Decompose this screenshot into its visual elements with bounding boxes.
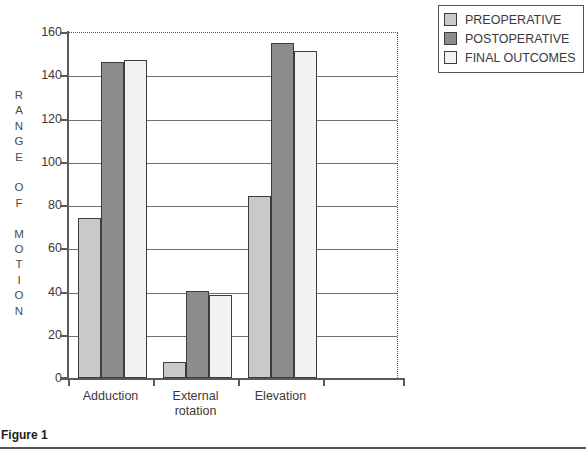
- bar-elevation-postoperative: [271, 43, 294, 378]
- bar-adduction-postoperative: [101, 62, 124, 378]
- x-axis-line: [60, 378, 405, 380]
- bar-external-rotation-postoperative: [186, 291, 209, 378]
- x-tick-mark: [323, 378, 325, 386]
- x-tick-mark: [403, 378, 405, 386]
- bar-external-rotation-final-outcomes: [209, 295, 232, 378]
- y-tick-mark: [60, 119, 67, 121]
- y-tick-mark: [60, 75, 67, 77]
- bar-adduction-preoperative: [78, 218, 101, 378]
- y-axis-line: [67, 31, 69, 379]
- y-tick-mark: [60, 205, 67, 207]
- x-tick-mark: [238, 378, 240, 386]
- y-tick-mark: [60, 377, 67, 379]
- bar-series-layer: [0, 0, 586, 458]
- bar-external-rotation-preoperative: [163, 362, 186, 378]
- bar-adduction-final-outcomes: [124, 60, 147, 378]
- y-tick-mark: [60, 32, 67, 34]
- bar-elevation-preoperative: [248, 196, 271, 378]
- x-tick-mark: [68, 378, 70, 386]
- y-tick-mark: [60, 162, 67, 164]
- bar-elevation-final-outcomes: [294, 51, 317, 378]
- y-tick-mark: [60, 292, 67, 294]
- y-tick-mark: [60, 248, 67, 250]
- figure-container: R A N G E O F M O T I O N 0 20 40 60 80 …: [0, 0, 586, 458]
- x-tick-mark: [153, 378, 155, 386]
- y-tick-mark: [60, 335, 67, 337]
